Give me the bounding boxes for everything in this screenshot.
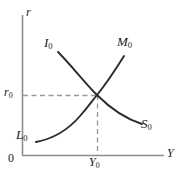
lm-curve-label-l0: L0 <box>16 128 28 141</box>
lm-curve <box>36 56 124 142</box>
s0-subscript: 0 <box>148 122 152 132</box>
r0-subscript: 0 <box>9 91 13 100</box>
is-curve-label-i0: I0 <box>44 36 53 49</box>
x-axis-title-text: Y <box>167 146 174 160</box>
y0-base: Y <box>89 155 96 169</box>
x-axis-title: Y <box>167 147 174 159</box>
is-curve <box>58 52 142 124</box>
i0-subscript: 0 <box>48 41 52 51</box>
lm-curve-label-m0: M0 <box>117 35 132 48</box>
origin-label-text: 0 <box>8 151 14 165</box>
y0-subscript: 0 <box>96 161 100 170</box>
r0-base: r <box>4 85 9 99</box>
s0-base: S <box>141 116 148 131</box>
l0-subscript: 0 <box>23 133 27 143</box>
y-axis-title-text: r <box>26 5 31 19</box>
diagram-canvas <box>0 0 182 172</box>
is-lm-diagram: r Y 0 r0 Y0 I0 M0 S0 L0 <box>0 0 182 172</box>
y-tick-label-r0: r0 <box>4 86 13 98</box>
y-axis-title: r <box>26 6 31 18</box>
m0-base: M <box>117 34 128 49</box>
x-tick-label-y0: Y0 <box>89 156 100 168</box>
origin-label: 0 <box>8 152 14 164</box>
m0-subscript: 0 <box>128 40 132 50</box>
is-curve-label-s0: S0 <box>141 117 152 130</box>
